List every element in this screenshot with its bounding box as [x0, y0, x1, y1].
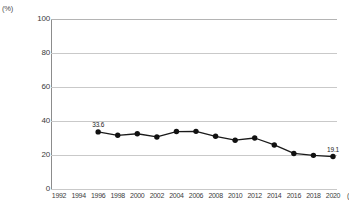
y-tick-label-40: 40: [10, 116, 50, 125]
data-point-2010: [232, 138, 237, 143]
x-tick-label-1996: 1996: [91, 192, 105, 199]
y-tick-label-80: 80: [10, 48, 50, 57]
y-axis-unit-label: (%): [2, 4, 13, 13]
x-tick-label-2000: 2000: [130, 192, 144, 199]
x-tick-label-2012: 2012: [248, 192, 262, 199]
y-tick-label-0: 0: [10, 184, 50, 193]
x-tick-label-2020: 2020: [326, 192, 340, 199]
x-tick-label-2006: 2006: [189, 192, 203, 199]
data-point-2016: [291, 151, 296, 156]
series-line: [51, 19, 337, 189]
data-point-2008: [213, 134, 218, 139]
data-point-1998: [115, 133, 120, 138]
y-tick-label-60: 60: [10, 82, 50, 91]
x-tick-label-2004: 2004: [169, 192, 183, 199]
data-label-1996: 33.6: [92, 121, 104, 128]
x-axis-ticks: 1992199419961998200020022004200620082010…: [51, 192, 345, 204]
data-label-2020: 19.1: [327, 146, 339, 153]
data-point-2020: [330, 154, 335, 159]
data-point-2002: [154, 134, 159, 139]
plot-area: 33.619.1: [51, 19, 337, 189]
x-tick-label-2014: 2014: [267, 192, 281, 199]
x-tick-label-1992: 1992: [52, 192, 66, 199]
gridline-0: [51, 189, 337, 190]
data-point-2014: [272, 142, 277, 147]
data-point-2018: [311, 153, 316, 158]
data-point-2000: [135, 131, 140, 136]
x-tick-label-2008: 2008: [208, 192, 222, 199]
x-tick-label-1998: 1998: [111, 192, 125, 199]
data-point-2004: [174, 129, 179, 134]
data-point-1996: [95, 129, 100, 134]
x-tick-label-2010: 2010: [228, 192, 242, 199]
y-tick-label-20: 20: [10, 150, 50, 159]
chart-title: [62, 0, 242, 4]
y-tick-label-100: 100: [10, 14, 50, 23]
data-point-2006: [193, 129, 198, 134]
x-tick-label-2002: 2002: [150, 192, 164, 199]
x-tick-label-2018: 2018: [306, 192, 320, 199]
x-tick-label-1994: 1994: [71, 192, 85, 199]
x-tick-label-2016: 2016: [287, 192, 301, 199]
data-point-2012: [252, 135, 257, 140]
